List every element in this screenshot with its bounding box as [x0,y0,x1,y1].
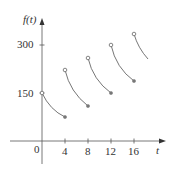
segment-2 [65,70,88,106]
x-axis-arrow-icon [159,139,166,144]
y-tick-label-150: 150 [17,88,34,99]
origin-label: 0 [34,144,40,155]
segment-5 [134,34,148,59]
filled-point-16 [132,79,135,82]
segment-3 [88,58,111,93]
x-tick-label-8: 8 [85,146,91,157]
filled-point-4 [63,115,66,118]
x-tick-label-4: 4 [62,146,68,157]
open-markers [40,32,136,95]
filled-point-12 [109,91,112,94]
segment-1 [42,93,65,117]
x-tick-label-12: 12 [105,146,116,157]
open-point-4 [63,68,67,72]
open-point-16 [132,32,136,36]
segment-4 [111,45,134,81]
y-tick-label-300: 300 [17,39,34,50]
open-point-8 [86,56,90,60]
x-tick-label-16: 16 [128,146,139,157]
filled-markers [63,79,135,118]
open-point-12 [109,43,113,47]
x-axis-label: t [156,145,159,156]
y-axis-arrow-icon [40,18,45,25]
filled-point-8 [86,104,89,107]
open-point-0 [40,91,44,95]
y-axis-label: f(t) [23,14,36,25]
curve-segments [42,34,148,117]
